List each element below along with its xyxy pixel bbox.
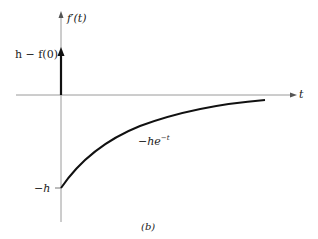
plot-area	[0, 0, 318, 239]
x-axis-arrow-icon	[290, 93, 297, 98]
curve-label-exponent: −t	[161, 134, 170, 142]
y-axis-arrow-icon	[59, 11, 64, 18]
curve-label-base: −he	[138, 135, 161, 148]
curve-label: −he−t	[138, 135, 170, 147]
figure-caption: (b)	[141, 222, 155, 232]
impulse-label: h − f(0)	[15, 49, 58, 60]
figure-canvas: f′(t) h − f(0) t −he−t −h (b)	[0, 0, 318, 239]
impulse-arrow-icon	[58, 47, 65, 56]
y-axis-label: f′(t)	[67, 13, 87, 24]
x-axis-label: t	[299, 89, 303, 100]
min-value-label: −h	[34, 183, 50, 194]
